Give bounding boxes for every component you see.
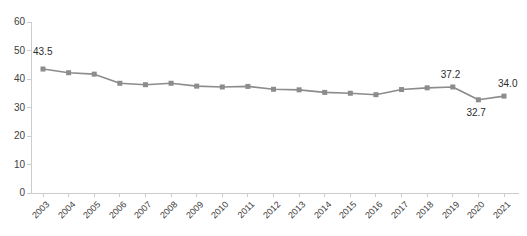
data-point-marker <box>502 94 507 99</box>
chart-plot-area <box>0 0 527 236</box>
y-axis-tick-label: 60 <box>1 17 25 27</box>
data-point-marker <box>271 87 276 92</box>
series-line <box>43 69 504 100</box>
y-axis-ticks <box>27 22 31 193</box>
data-point-marker <box>117 81 122 86</box>
line-chart: 0102030405060 20032004200520062007200820… <box>0 0 527 236</box>
y-axis-tick-label: 30 <box>1 103 25 113</box>
data-point-marker <box>425 85 430 90</box>
data-point-label: 34.0 <box>498 79 517 89</box>
data-point-marker <box>92 72 97 77</box>
data-point-marker <box>169 81 174 86</box>
data-point-marker <box>322 90 327 95</box>
data-point-marker <box>66 70 71 75</box>
data-point-marker <box>297 87 302 92</box>
y-axis-tick-label: 0 <box>1 188 25 198</box>
data-point-label: 32.7 <box>466 108 485 118</box>
data-point-label: 37.2 <box>441 70 460 80</box>
data-point-marker <box>143 82 148 87</box>
y-axis-tick-label: 40 <box>1 74 25 84</box>
axis-lines <box>31 22 519 193</box>
data-point-label: 43.5 <box>33 47 52 57</box>
y-axis-tick-label: 10 <box>1 160 25 170</box>
data-point-marker <box>399 87 404 92</box>
data-point-marker <box>41 67 46 72</box>
data-point-marker <box>450 84 455 89</box>
data-point-marker <box>220 84 225 89</box>
data-point-marker <box>476 97 481 102</box>
y-axis-tick-label: 50 <box>1 46 25 56</box>
data-point-marker <box>373 92 378 97</box>
y-axis-tick-label: 20 <box>1 131 25 141</box>
series-markers <box>41 67 507 103</box>
data-point-marker <box>245 84 250 89</box>
x-axis-ticks <box>43 193 504 197</box>
data-point-marker <box>348 91 353 96</box>
data-point-marker <box>194 84 199 89</box>
